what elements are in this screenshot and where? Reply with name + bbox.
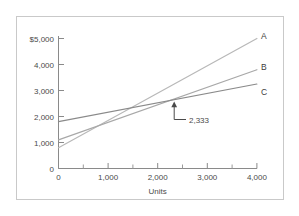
x-tick-label-3000: 3,000 [197,173,218,182]
series-label-c: C [261,87,267,97]
y-axis-tick-labels: $5,000 4,000 3,000 2,000 1,000 0 [30,35,55,174]
series-line-b [59,70,257,140]
y-tick-label-2000: 2,000 [34,113,55,122]
x-tick-label-1000: 1,000 [98,173,119,182]
annotation-arrowhead-icon [171,102,177,108]
data-series-group [59,39,257,148]
y-axis-ticks [59,39,65,169]
x-axis-title: Units [149,187,167,196]
figure-root: $5,000 4,000 3,000 2,000 1,000 0 0 1,000 [0,0,299,216]
x-tick-label-0: 0 [56,173,61,182]
y-tick-label-4000: 4,000 [34,61,55,70]
annotation-value-label: 2,333 [189,116,210,125]
annotation-2333: 2,333 [171,102,209,125]
x-tick-label-4000: 4,000 [247,173,268,182]
y-tick-label-0: 0 [50,165,55,174]
series-label-a: A [261,31,267,41]
y-tick-label-5000: $5,000 [30,35,55,44]
series-line-c [59,84,257,122]
x-axis-tick-labels: 0 1,000 2,000 3,000 4,000 [56,173,267,182]
x-axis-ticks [59,163,257,169]
line-chart: $5,000 4,000 3,000 2,000 1,000 0 0 1,000 [0,0,299,216]
y-tick-label-3000: 3,000 [34,87,55,96]
series-end-labels: A B C [261,31,267,97]
y-tick-label-1000: 1,000 [34,139,55,148]
x-tick-label-2000: 2,000 [148,173,169,182]
series-label-b: B [261,62,267,72]
series-line-a [59,39,257,148]
